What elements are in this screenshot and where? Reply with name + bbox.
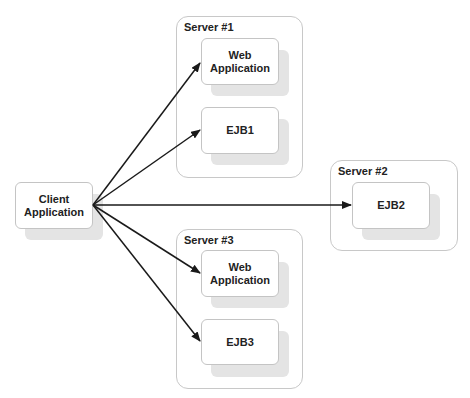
server-3-ejb3-node[interactable]: EJB3 [201,319,279,365]
client-application-node[interactable]: Client Application [15,182,93,229]
server-2-title: Server #2 [338,165,388,177]
server-1-web-application-node[interactable]: Web Application [201,38,279,85]
server-2-ejb2-node[interactable]: EJB2 [352,182,430,229]
server-1-ejb1-node[interactable]: EJB1 [201,107,279,154]
server-3-web-application-node[interactable]: Web Application [201,250,279,297]
server-3-title: Server #3 [184,234,234,246]
server-1-title: Server #1 [184,21,234,33]
